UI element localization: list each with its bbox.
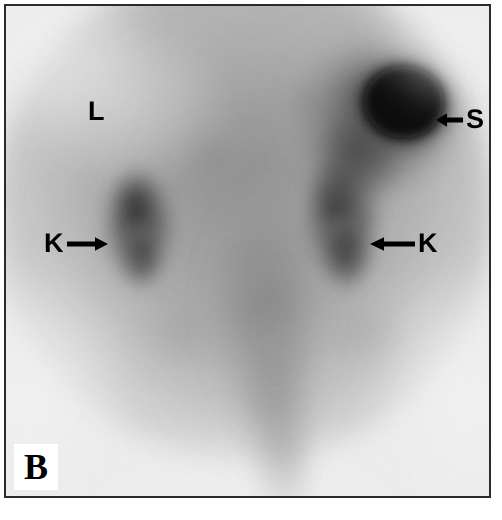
panel-label: B [14, 444, 58, 490]
scintigram-image [6, 6, 489, 496]
scan-frame: L S K K [4, 4, 491, 498]
panel-label-text: B [24, 449, 48, 485]
scintigraphy-figure: L S K K [0, 0, 502, 520]
